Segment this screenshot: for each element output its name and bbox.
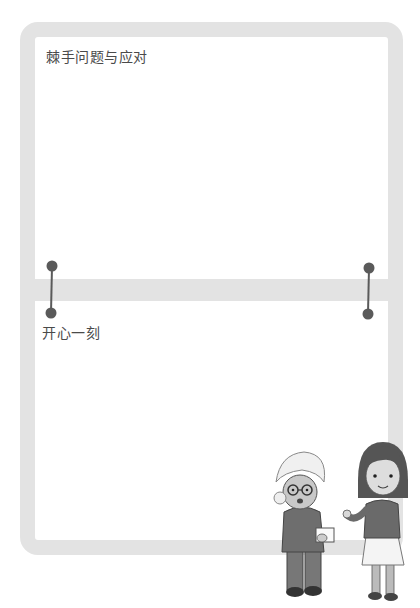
grandma-and-girl-illustration — [262, 420, 420, 608]
section-title-difficult-issues: 棘手问题与应对 — [46, 46, 148, 66]
grandma-figure — [274, 452, 334, 597]
section-title-happy-moment: 开心一刻 — [42, 322, 100, 342]
girl-figure — [343, 442, 408, 601]
binder-ring-left-icon — [44, 258, 60, 322]
binder-ring-right-icon — [361, 260, 377, 324]
section-divider — [20, 279, 403, 301]
